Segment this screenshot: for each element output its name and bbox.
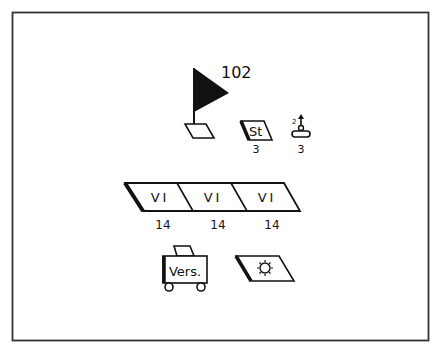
vi-segment-2-count: 14 bbox=[210, 218, 225, 232]
antenna-superscript: 2 bbox=[292, 118, 296, 126]
staff-unit-count: 3 bbox=[253, 143, 260, 156]
diagram-canvas: 102 St 3 2 3 VI VI VI 14 14 14 Vers. bbox=[0, 0, 443, 354]
vi-segment-1-label: VI bbox=[151, 190, 170, 205]
antenna-count: 3 bbox=[298, 143, 305, 156]
staff-unit-label: St bbox=[249, 124, 262, 139]
flag-label: 102 bbox=[221, 63, 252, 82]
vi-segment-1-count: 14 bbox=[155, 218, 170, 232]
diagram-frame bbox=[13, 13, 429, 341]
vi-segment-3-label: VI bbox=[258, 190, 277, 205]
sun-unit-icon bbox=[236, 256, 294, 281]
vi-segment-2-label: VI bbox=[204, 190, 223, 205]
supply-cart-label: Vers. bbox=[169, 264, 201, 279]
vi-segment-3-count: 14 bbox=[264, 218, 279, 232]
